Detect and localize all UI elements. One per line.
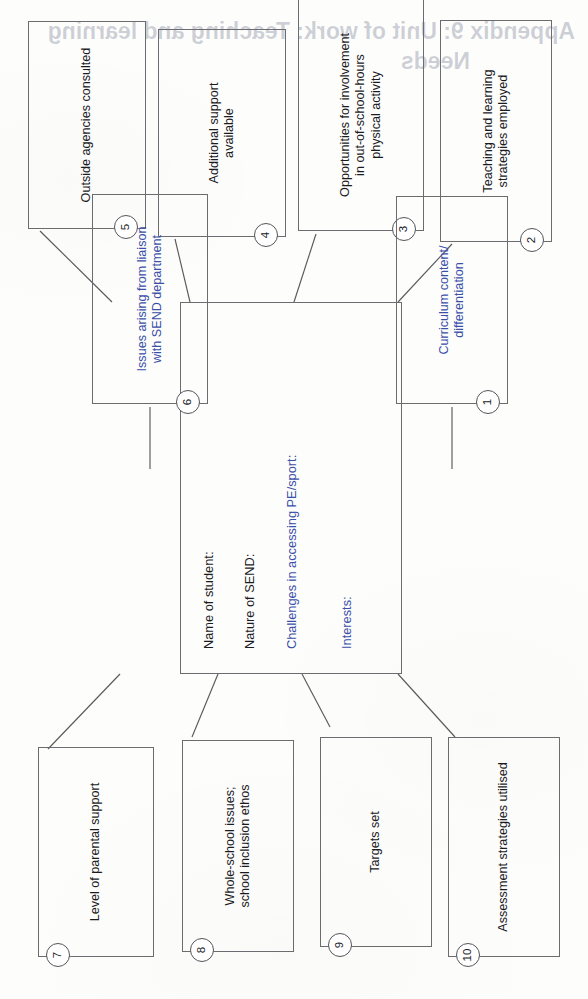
connector-center-to-node-7	[48, 674, 120, 749]
node-6-label: Issues arising from liaison with SEND de…	[135, 219, 166, 380]
node-2-number-badge: 2	[520, 228, 544, 252]
node-8-whole-school-issues-inclusion-ethos: 8 Whole-school issues; school inclusion …	[182, 740, 294, 952]
node-9-label: Targets set	[368, 803, 384, 881]
node-10-number-badge: 10	[456, 943, 480, 967]
connector-center-to-node-3	[294, 234, 316, 302]
node-10-assessment-strategies-utilised: 10 Assessment strategies utilised	[448, 737, 560, 957]
connector-center-to-node-8	[192, 674, 218, 737]
scanned-page: Appendix 9: Unit of work: Teaching and l…	[0, 0, 588, 999]
node-7-level-of-parental-support: 7 Level of parental support	[38, 747, 154, 957]
node-7-number-badge: 7	[46, 943, 70, 967]
node-4-number-badge: 4	[254, 223, 278, 247]
node-2-label: Teaching and learning strategies employe…	[481, 61, 512, 200]
field-nature-of-send: Nature of SEND:	[242, 327, 257, 649]
node-4-label: Additional support available	[207, 75, 238, 192]
node-7-label: Level of parental support	[88, 775, 104, 930]
node-5-label: Outside agencies consulted	[79, 40, 95, 211]
connector-center-to-node-9	[302, 674, 330, 727]
node-10-label: Assessment strategies utilised	[496, 754, 512, 939]
diagram-stage: Name of student: Nature of SEND: Challen…	[0, 0, 588, 999]
node-9-targets-set: 9 Targets set	[320, 737, 432, 947]
node-8-number-badge: 8	[190, 938, 214, 962]
node-3-label: Opportunities for involvement in out-of-…	[338, 25, 385, 205]
field-challenges-accessing-pe-sport: Challenges in accessing PE/sport:	[284, 327, 299, 649]
field-interests: Interests:	[339, 327, 354, 649]
spacer	[258, 327, 284, 649]
node-8-label: Whole-school issues; school inclusion et…	[223, 776, 254, 915]
node-6-issues-liaison-send-department: 6 Issues arising from liaison with SEND …	[92, 194, 208, 404]
node-6-number-badge: 6	[176, 390, 200, 414]
spacer	[299, 327, 339, 649]
node-1-label: Curriculum content/ differentiation	[437, 237, 468, 362]
node-1-number-badge: 1	[476, 390, 500, 414]
connector-center-to-node-10	[398, 674, 455, 737]
node-1-curriculum-content-differentiation: 1 Curriculum content/ differentiation	[396, 196, 508, 404]
spacer	[216, 327, 242, 649]
node-9-number-badge: 9	[328, 933, 352, 957]
student-profile-box: Name of student: Nature of SEND: Challen…	[180, 302, 402, 674]
